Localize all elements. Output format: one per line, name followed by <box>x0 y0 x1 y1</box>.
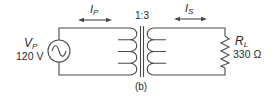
source-voltage-symbol: VP <box>24 36 38 51</box>
resistor-icon <box>221 36 229 68</box>
primary-arrow-left-head-icon <box>78 18 84 22</box>
primary-bottom-wire <box>59 62 130 75</box>
turns-ratio-label: 1:3 <box>135 10 149 21</box>
transformer-circuit-diagram: IP IS 1:3 VP 120 V RL 330 Ω (b) <box>0 0 278 101</box>
sine-wave-icon <box>52 46 66 57</box>
primary-top-wire <box>59 28 130 40</box>
load-resistor-value: 330 Ω <box>233 48 261 60</box>
source-voltage-value: 120 V <box>16 50 43 62</box>
load-resistor-symbol: RL <box>235 34 248 49</box>
primary-current-label: IP <box>90 3 99 17</box>
secondary-coil-icon <box>147 28 166 75</box>
secondary-top-wire <box>154 28 225 36</box>
primary-arrow-right-head-icon <box>106 18 112 22</box>
secondary-arrow-right-head-icon <box>201 17 207 21</box>
secondary-arrow-left-head-icon <box>174 17 180 21</box>
secondary-current-label: IS <box>185 2 194 16</box>
secondary-bottom-wire <box>154 68 225 75</box>
primary-coil-icon <box>118 28 137 75</box>
figure-caption: (b) <box>135 81 147 92</box>
